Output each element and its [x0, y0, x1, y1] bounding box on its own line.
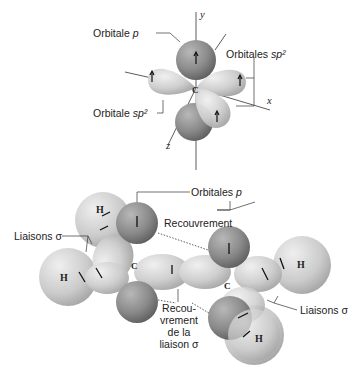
label-orbital-sp2: Orbitale sp²	[93, 107, 147, 119]
atom-label-h-top-left: H	[96, 204, 104, 216]
atom-label-carbon-right: C	[224, 280, 231, 292]
atom-label-h-bottom-right: H	[255, 333, 263, 345]
label-sigma-bonds-left: Liaisons σ	[14, 230, 62, 242]
atom-label-carbon-left: C	[131, 260, 138, 272]
label-orbitals-p: Orbitales p	[191, 186, 242, 198]
axis-label-x: x	[267, 95, 272, 107]
sp2-hybridization-diagram: Orbitale p Orbitales sp² Orbitale sp² y …	[0, 0, 358, 366]
p-orbital-left-lower	[116, 281, 158, 323]
axis-label-y: y	[200, 9, 205, 21]
atom-label-carbon: C	[192, 84, 199, 96]
label-overlap: Recouvrement	[164, 217, 232, 229]
overlap-line-upper	[158, 233, 208, 250]
atom-label-h-right: H	[297, 259, 305, 271]
label-orbital-p: Orbitale p	[93, 27, 139, 39]
label-sigma-bonds-right: Liaisons σ	[300, 304, 348, 316]
label-orbitals-sp2: Orbitales sp²	[226, 48, 286, 60]
atom-label-h-left: H	[60, 272, 68, 284]
axis-label-z: z	[166, 140, 170, 152]
label-sigma-overlap: Recou- vrement de la liaison σ	[154, 302, 204, 350]
